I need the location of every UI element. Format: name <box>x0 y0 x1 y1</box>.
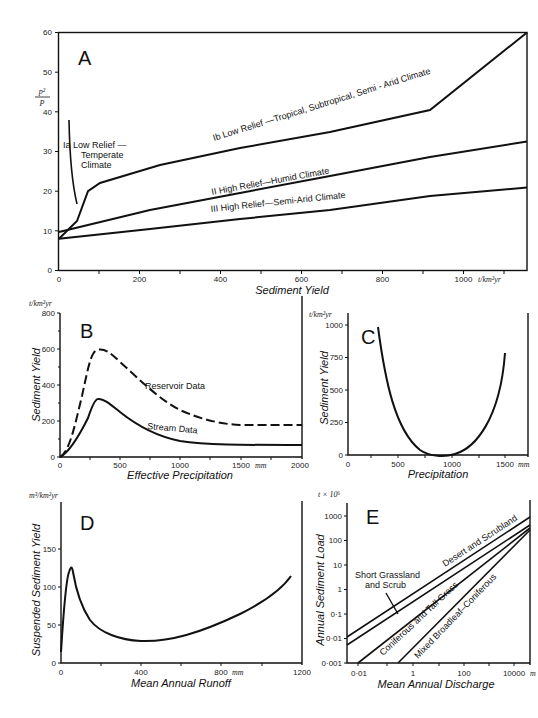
e-ytick: 0·1 <box>330 610 342 619</box>
d-line-yield <box>61 568 291 653</box>
e-xtick: 100 <box>457 669 471 678</box>
e-label-grass: and Scrub <box>365 580 406 590</box>
b-ytick: 0 <box>51 453 56 462</box>
e-y-unit: t × 10⁶ <box>318 490 341 499</box>
a-ann-ib: Ib Low Relief —Tropical, Subtropical, Se… <box>212 66 432 143</box>
a-ytick: 0 <box>48 266 53 275</box>
panel-a: 0 10 20 30 40 50 60 0 200 400 600 800 10… <box>35 28 527 296</box>
c-xtick: 500 <box>391 460 405 469</box>
panel-d-axes <box>61 502 302 663</box>
b-y-unit: t/km²yr <box>29 299 53 308</box>
a-ytick: 30 <box>43 147 52 156</box>
a-line-ii <box>59 142 527 233</box>
d-x-unit: mm <box>232 668 244 677</box>
e-y-label: Annual Sediment Load <box>314 533 326 646</box>
e-ytick: 1000 <box>324 512 342 521</box>
c-ytick: 750 <box>330 353 344 362</box>
a-ann-ii: II High Relief—Humid Climate <box>211 166 330 197</box>
b-xtick: 500 <box>113 461 127 470</box>
b-label-reservoir: Reservoir Data <box>145 381 205 391</box>
a-ytick: 60 <box>43 28 52 37</box>
e-x-label: Mean Annual Discharge <box>378 678 495 690</box>
c-x-unit: mm <box>518 460 530 469</box>
d-ytick: 50 <box>47 621 56 630</box>
e-xtick: 0·01 <box>351 669 368 678</box>
panel-d-letter: D <box>80 512 94 534</box>
b-y-label: Sediment Yield <box>30 347 42 421</box>
d-xtick: 1200 <box>293 668 311 677</box>
panel-d-ticks <box>58 549 262 666</box>
a-xtick: 800 <box>376 275 390 284</box>
b-ytick: 600 <box>42 345 56 354</box>
c-ytick: 250 <box>330 418 344 427</box>
b-ytick: 400 <box>42 381 56 390</box>
c-line-yield <box>378 327 505 456</box>
panel-d: 0 50 100 150 0 400 800 mm 1200 m³/km²yr … <box>29 491 311 689</box>
a-line-ia-ib <box>59 33 527 239</box>
figure-canvas: 0 10 20 30 40 50 60 0 200 400 600 800 10… <box>0 0 538 718</box>
e-ytick: 10 <box>333 561 342 570</box>
a-ann-ia: Climate <box>81 160 112 170</box>
b-xtick: 1500 <box>232 461 250 470</box>
panel-b: 0 200 400 600 800 0 500 1000 1500 mm 200… <box>29 296 309 481</box>
d-ytick: 0 <box>52 659 57 668</box>
panel-a-letter: A <box>78 47 92 69</box>
e-ytick: 0·01 <box>326 634 343 643</box>
c-xtick: 1500 <box>496 460 514 469</box>
a-ytick: 40 <box>43 108 52 117</box>
a-xtick: 0 <box>57 275 62 284</box>
panel-c-letter: C <box>361 326 375 348</box>
b-x-label: Effective Precipitation <box>127 469 233 481</box>
e-xtick: 10000 <box>503 669 526 678</box>
c-ytick: 0 <box>339 451 344 460</box>
a-xtick: 600 <box>295 275 309 284</box>
d-y-unit: m³/km²yr <box>29 491 59 500</box>
e-x-unit: m <box>530 669 536 678</box>
a-ytick: 50 <box>43 68 52 77</box>
d-ytick: 150 <box>43 545 57 554</box>
panel-a-frame <box>59 33 528 271</box>
a-xtick: 1000 <box>455 275 473 284</box>
panel-e-letter: E <box>366 506 379 528</box>
panel-e: 1000 100 10 1 0·1 0·01 0·001 0·01 1 100 … <box>314 490 536 690</box>
a-x-label: Sediment Yield <box>255 284 329 296</box>
a-x-unit: t/km²yr <box>478 275 502 284</box>
d-ytick: 100 <box>43 583 57 592</box>
e-ytick: 0·001 <box>322 659 343 668</box>
a-ytick: 20 <box>43 187 52 196</box>
c-ytick: 1000 <box>325 321 343 330</box>
b-ytick: 800 <box>42 309 56 318</box>
b-xtick: 2000 <box>291 461 309 470</box>
a-ia-pointer <box>69 120 77 204</box>
panel-b-letter: B <box>80 320 93 342</box>
a-xtick: 200 <box>133 275 147 284</box>
e-label-grass: Short Grassland <box>355 570 420 580</box>
d-xtick: 800 <box>214 668 228 677</box>
e-ytick: 100 <box>329 536 343 545</box>
c-ytick: 500 <box>330 386 344 395</box>
e-ytick: 1 <box>338 585 343 594</box>
a-ann-ia: Ia Low Relief — <box>63 140 127 150</box>
c-xtick: 0 <box>346 460 351 469</box>
c-y-unit: t/km²yr <box>309 310 333 319</box>
d-xtick: 0 <box>59 668 64 677</box>
e-xtick: 1 <box>411 669 416 678</box>
a-xtick: 400 <box>214 275 228 284</box>
d-y-label: Suspended Sediment Yield <box>30 523 42 656</box>
d-xtick: 400 <box>134 668 148 677</box>
c-x-label: Precipitation <box>408 468 469 480</box>
a-y-label-num: p² <box>38 87 46 96</box>
a-y-label-den: P <box>39 99 45 108</box>
a-ytick: 10 <box>43 227 52 236</box>
b-x-unit: mm <box>255 461 267 470</box>
a-ann-ia: Temperate <box>81 150 124 160</box>
panel-c: 0 250 500 750 1000 0 500 1000 1500 mm t/… <box>309 310 530 480</box>
d-x-label: Mean Annual Runoff <box>131 677 232 689</box>
b-ytick: 200 <box>42 417 56 426</box>
b-xtick: 0 <box>58 461 63 470</box>
c-y-label: Sediment Yield <box>318 350 330 424</box>
